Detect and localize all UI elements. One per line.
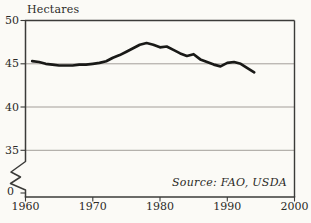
x-tick-label: 1970 (76, 200, 110, 213)
line-chart-figure: Hectares 50454035019601970198019902000 S… (0, 0, 310, 223)
source-annotation: Source: FAO, USDA (172, 176, 287, 189)
x-tick-label: 2000 (278, 200, 311, 213)
x-tick-label: 1960 (9, 200, 43, 213)
y-tick-label: 0 (0, 185, 14, 198)
data-line-hectares (32, 43, 254, 72)
y-tick-label: 45 (0, 57, 19, 70)
x-tick-label: 1980 (143, 200, 177, 213)
y-tick-label: 35 (0, 144, 19, 157)
y-tick-label: 50 (0, 14, 19, 27)
y-tick-label: 40 (0, 101, 19, 114)
chart-plot-area (0, 0, 310, 223)
x-tick-label: 1990 (210, 200, 244, 213)
